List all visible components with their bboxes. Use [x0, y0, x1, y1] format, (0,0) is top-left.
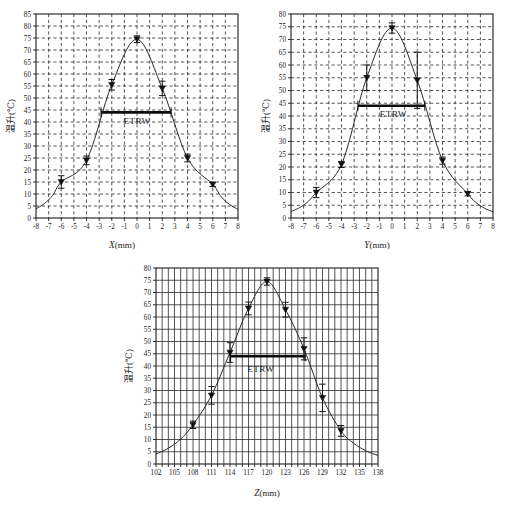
y-tick-label: 15 — [279, 176, 287, 184]
x-tick-label: 105 — [169, 469, 180, 477]
y-tick-label: 50 — [144, 338, 152, 346]
y-tick-label: 15 — [24, 179, 32, 187]
chart-y-svg: 05101520253035404550556065707580-8-7-6-5… — [255, 0, 509, 254]
y-tick-label: 50 — [279, 87, 287, 95]
chart-z-axis-title-group: Z(mm) — [254, 488, 280, 498]
x-tick-label: -4 — [84, 223, 90, 231]
chart-z-y-axis-title: 温升(℃) — [124, 349, 134, 383]
chart-x-axis-title: X(mm) — [108, 240, 135, 250]
y-tick-label: 10 — [279, 189, 287, 197]
y-tick-label: 10 — [144, 436, 152, 444]
y-tick-label: 60 — [279, 62, 287, 70]
x-tick-label: 7 — [479, 223, 483, 231]
chart-panel-y: 05101520253035404550556065707580-8-7-6-5… — [255, 0, 509, 254]
y-tick-label: 30 — [279, 138, 287, 146]
y-tick-label: 40 — [279, 113, 287, 121]
y-tick-label: 40 — [24, 119, 32, 127]
x-tick-label: -3 — [96, 223, 102, 231]
x-tick-label: -8 — [33, 223, 39, 231]
y-tick-label: 25 — [24, 155, 32, 163]
y-tick-label: 5 — [282, 202, 286, 210]
y-tick-label: 65 — [279, 49, 287, 57]
x-tick-label: 3 — [428, 223, 432, 231]
chart-y-y-axis-title: 温升(℃) — [261, 99, 271, 133]
x-tick-label: 120 — [262, 469, 273, 477]
y-tick-label: 0 — [282, 215, 286, 223]
chart-z-etrw-annotation — [231, 351, 306, 361]
data-point-marker — [208, 393, 214, 398]
y-tick-label: 70 — [24, 47, 32, 55]
x-tick-label: 1 — [403, 223, 407, 231]
x-tick-label: -2 — [364, 223, 370, 231]
y-tick-label: 60 — [144, 314, 152, 322]
x-tick-label: 5 — [453, 223, 457, 231]
x-tick-label: -7 — [301, 223, 307, 231]
y-tick-label: 55 — [24, 83, 32, 91]
x-tick-label: 117 — [243, 469, 254, 477]
data-point-marker — [159, 86, 165, 91]
y-tick-label: 5 — [27, 203, 31, 211]
data-point-marker — [301, 346, 307, 351]
x-tick-label: 5 — [198, 223, 202, 231]
y-tick-label: 45 — [279, 100, 287, 108]
x-tick-label: 0 — [135, 223, 139, 231]
y-tick-label: 15 — [144, 424, 152, 432]
x-tick-label: -7 — [46, 223, 52, 231]
x-tick-label: 126 — [299, 469, 310, 477]
x-tick-label: 4 — [441, 223, 445, 231]
data-point-marker — [414, 78, 420, 83]
x-tick-label: 138 — [373, 469, 384, 477]
chart-z-axis-title: Z(mm) — [254, 488, 280, 498]
chart-y-axis-title-group: Y(mm) — [364, 240, 390, 250]
y-tick-label: 35 — [144, 375, 152, 383]
x-tick-label: 132 — [336, 469, 347, 477]
x-tick-label: 8 — [236, 223, 240, 231]
x-tick-label: 6 — [211, 223, 215, 231]
y-tick-label: 60 — [24, 71, 32, 79]
y-tick-label: 25 — [144, 399, 152, 407]
x-tick-label: 114 — [225, 469, 236, 477]
y-tick-label: 30 — [144, 387, 152, 395]
y-tick-label: 35 — [24, 131, 32, 139]
y-tick-label: 55 — [144, 326, 152, 334]
x-tick-label: 129 — [317, 469, 328, 477]
y-tick-label: 80 — [144, 265, 152, 273]
y-tick-label: 85 — [24, 11, 32, 19]
y-tick-label: 5 — [147, 448, 151, 456]
chart-y-etrw-label: ETRW — [380, 109, 407, 119]
x-tick-label: 111 — [206, 469, 217, 477]
chart-y-axis-title: Y(mm) — [364, 240, 390, 250]
x-tick-label: -2 — [109, 223, 115, 231]
chart-panel-z: 0510152025303540455055606570758010210510… — [100, 254, 400, 508]
y-tick-label: 10 — [24, 191, 32, 199]
y-tick-label: 65 — [144, 301, 152, 309]
x-tick-label: -6 — [58, 223, 64, 231]
x-tick-label: 108 — [188, 469, 199, 477]
y-tick-label: 75 — [24, 35, 32, 43]
y-tick-label: 75 — [144, 277, 152, 285]
x-tick-label: 6 — [466, 223, 470, 231]
y-tick-label: 20 — [279, 164, 287, 172]
x-tick-label: 0 — [390, 223, 394, 231]
y-tick-label: 70 — [144, 289, 152, 297]
y-tick-label: 80 — [24, 23, 32, 31]
y-tick-label: 80 — [279, 11, 287, 19]
chart-x-svg: 0510152025303540455055606570758085-8-7-6… — [0, 0, 255, 254]
x-tick-label: 2 — [160, 223, 164, 231]
x-tick-label: 123 — [280, 469, 291, 477]
data-point-marker — [319, 395, 325, 400]
x-tick-label: 1 — [148, 223, 152, 231]
data-point-marker — [83, 158, 89, 163]
y-tick-label: 20 — [144, 412, 152, 420]
x-tick-label: -1 — [376, 223, 382, 231]
x-tick-label: -6 — [313, 223, 319, 231]
y-tick-label: 45 — [24, 107, 32, 115]
chart-panel-x: 0510152025303540455055606570758085-8-7-6… — [0, 0, 255, 254]
y-tick-label: 35 — [279, 125, 287, 133]
y-tick-label: 70 — [279, 36, 287, 44]
x-tick-label: 3 — [173, 223, 177, 231]
x-tick-label: -5 — [326, 223, 332, 231]
chart-x-y-axis-title: 温升(℃) — [6, 99, 16, 133]
data-point-marker — [439, 158, 445, 163]
y-tick-label: 40 — [144, 363, 152, 371]
